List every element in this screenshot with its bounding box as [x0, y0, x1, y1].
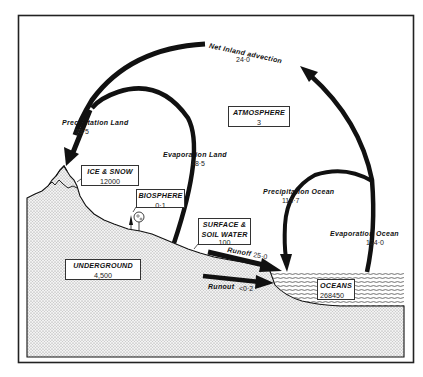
reservoir-ice-snow-value: 12000 [82, 178, 138, 185]
value-runout: <0·2 [239, 285, 253, 292]
value-evaporation-ocean: 124·0 [366, 239, 384, 246]
reservoir-oceans-value: 268450 [320, 292, 354, 299]
value-evaporation-land: 48·5 [191, 160, 205, 167]
label-runout: Runout [208, 283, 234, 290]
reservoir-atmosphere-value: 3 [229, 119, 289, 126]
value-precipitation-land: 73·5 [75, 128, 89, 135]
reservoir-biosphere-label: BIOSPHERE [137, 192, 184, 199]
reservoir-ice-snow-label: ICE & SNOW [82, 168, 138, 175]
reservoir-surface-soil-label-2: SOIL WATER [199, 231, 250, 238]
reservoir-underground-label: UNDERGROUND [66, 262, 140, 269]
reservoir-atmosphere-label: ATMOSPHERE [229, 109, 289, 116]
reservoir-ice-snow: ICE & SNOW 12000 [81, 165, 139, 186]
label-precipitation-land: Precipitation Land [62, 119, 128, 126]
label-evaporation-land: Evaporation Land [163, 151, 227, 158]
reservoir-atmosphere: ATMOSPHERE 3 [228, 106, 290, 127]
reservoir-biosphere-value: 0·1 [137, 202, 184, 209]
label-precipitation-ocean: Precipitation Ocean [263, 188, 334, 195]
reservoir-underground-value: 4,500 [66, 272, 140, 279]
value-net-inland-advection: 24·0 [236, 56, 250, 63]
value-precipitation-ocean: 113·7 [282, 197, 299, 204]
reservoir-oceans-label: OCEANS [320, 282, 354, 289]
reservoir-surface-soil-value: 100 [199, 239, 250, 246]
reservoir-surface-soil-label-1: SURFACE & [199, 221, 250, 228]
reservoir-underground: UNDERGROUND 4,500 [65, 259, 141, 280]
reservoir-oceans: OCEANS 268450 [317, 279, 355, 300]
water-cycle-diagram [0, 0, 423, 377]
reservoir-surface-soil-water: SURFACE & SOIL WATER 100 [198, 218, 251, 245]
reservoir-biosphere: BIOSPHERE 0·1 [136, 189, 185, 208]
label-evaporation-ocean: Evaporation Ocean [330, 230, 399, 237]
